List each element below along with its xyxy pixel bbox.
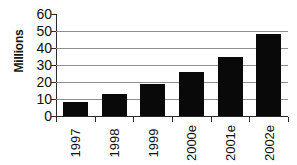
y-axis-tick-label: 40: [22, 41, 52, 55]
gridline: [56, 82, 288, 83]
bar-1999: [140, 84, 165, 116]
bar-1997: [63, 102, 88, 116]
x-axis-tick-label: 2001e: [224, 125, 237, 161]
bar-2000e: [179, 72, 204, 116]
y-axis-tick-label: 30: [22, 58, 52, 72]
y-axis-tickmark: [51, 14, 56, 15]
y-axis-tick-labels: 6050403020100: [22, 14, 52, 116]
gridline: [56, 65, 288, 66]
x-axis-tick-labels: 1997199819992000e2001e2002e: [56, 122, 288, 165]
y-axis-tickmark: [51, 48, 56, 49]
y-axis-tickmark: [51, 82, 56, 83]
x-axis-tick-label: 1999: [146, 129, 159, 158]
bar-chart: Millions 6050403020100 1997199819992000e…: [0, 0, 297, 165]
x-axis-tick-label: 2000e: [185, 125, 198, 161]
y-axis-tickmark: [51, 65, 56, 66]
x-axis-tick-label: 1998: [108, 129, 121, 158]
x-axis-tick-label-wrap: 2000e: [174, 122, 208, 165]
y-axis-tick-label: 10: [22, 92, 52, 106]
x-axis-tickmark: [288, 117, 289, 122]
x-axis-tick-label-wrap: 1997: [58, 122, 92, 165]
bar-2002e: [256, 34, 281, 116]
bar-2001e: [218, 57, 243, 117]
x-axis-tick-label-wrap: 1998: [97, 122, 131, 165]
x-axis-tick-label-wrap: 2001e: [213, 122, 247, 165]
gridline: [56, 31, 288, 32]
x-axis-tick-label: 2002e: [262, 125, 275, 161]
y-axis-tick-label: 20: [22, 75, 52, 89]
x-axis-tick-label-wrap: 2002e: [252, 122, 286, 165]
y-axis-tick-label: 60: [22, 7, 52, 21]
gridline: [56, 99, 288, 100]
y-axis-tick-label: 50: [22, 24, 52, 38]
y-axis-tick-label: 0: [22, 109, 52, 123]
plot-area: [56, 14, 288, 116]
x-axis-tick-label: 1997: [69, 129, 82, 158]
y-axis-tickmark: [51, 116, 56, 117]
x-axis-tick-label-wrap: 1999: [136, 122, 170, 165]
bar-1998: [102, 94, 127, 116]
y-axis-tickmark: [51, 99, 56, 100]
gridline: [56, 48, 288, 49]
y-axis-tickmark: [51, 31, 56, 32]
